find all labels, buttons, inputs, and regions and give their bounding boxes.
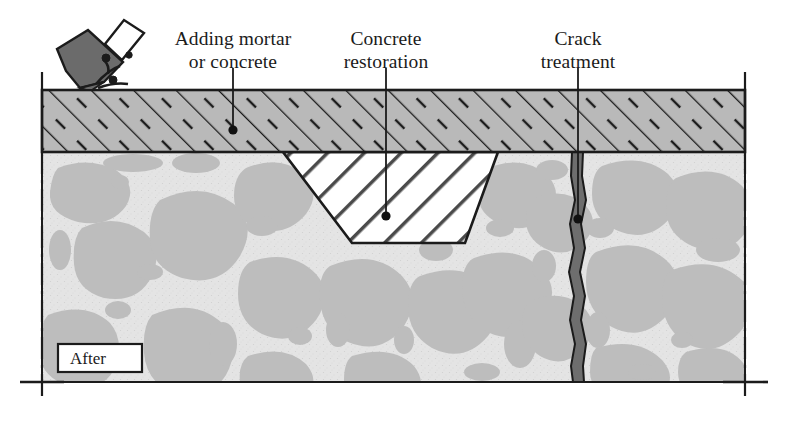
leader-dot-restoration (381, 211, 390, 220)
label-concrete-restoration-line2: restoration (344, 51, 429, 72)
stage-badge: After (58, 344, 142, 372)
label-adding-mortar: Adding mortar or concrete (175, 28, 292, 72)
mortar-overlay-layer (42, 90, 745, 152)
stage-badge-label: After (70, 349, 106, 368)
concrete-repair-diagram: Adding mortar or concrete Concrete resto… (0, 0, 787, 421)
figure-stage: Adding mortar or concrete Concrete resto… (0, 0, 787, 421)
chisel-tool-icon (57, 20, 144, 90)
leader-dot-mortar (228, 125, 237, 134)
label-concrete-restoration: Concrete restoration (344, 28, 429, 72)
mortar-hatch-fill (42, 90, 745, 152)
label-concrete-restoration-line1: Concrete (350, 28, 421, 49)
label-adding-mortar-line1: Adding mortar (175, 28, 292, 49)
leader-dot-crack (573, 214, 582, 223)
label-crack-treatment: Crack treatment (541, 28, 616, 72)
label-crack-treatment-line1: Crack (554, 28, 601, 49)
label-crack-treatment-line2: treatment (541, 51, 616, 72)
label-adding-mortar-line2: or concrete (189, 51, 277, 72)
